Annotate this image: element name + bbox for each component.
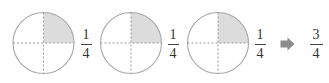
- denominator: 4: [250, 47, 270, 62]
- denominator: 4: [306, 47, 326, 62]
- fraction-bar: [255, 44, 266, 45]
- fraction-bar: [310, 44, 323, 45]
- circle-1: [13, 13, 74, 74]
- fraction-bar: [168, 44, 179, 45]
- fraction-label-1: 1 4: [76, 28, 96, 62]
- circle-2: [101, 13, 162, 74]
- right-arrow-icon: [281, 38, 295, 51]
- fraction-label-3: 1 4: [250, 28, 270, 62]
- result-fraction: 3 4: [306, 28, 326, 62]
- numerator: 1: [250, 28, 270, 43]
- fraction-label-2: 1 4: [163, 28, 183, 62]
- fraction-bar: [81, 44, 92, 45]
- circle-3: [188, 13, 249, 74]
- denominator: 4: [76, 47, 96, 62]
- numerator: 1: [163, 28, 183, 43]
- numerator: 3: [306, 28, 326, 43]
- numerator: 1: [76, 28, 96, 43]
- denominator: 4: [163, 47, 183, 62]
